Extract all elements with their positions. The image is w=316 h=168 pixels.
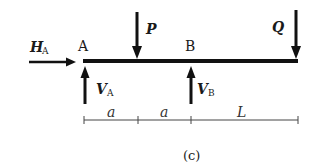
- label-VB-subscript: B: [208, 88, 215, 98]
- vertical-reaction-VB: V B: [187, 66, 216, 104]
- point-label-A: A: [77, 38, 89, 54]
- horizontal-reaction-HA: H A: [29, 39, 76, 67]
- point-label-B: B: [185, 38, 195, 54]
- dimension-label-a1: a: [107, 104, 115, 120]
- dimension-line: a a L: [84, 104, 298, 124]
- beam-diagram: H A A P B Q V A V B a a L: [0, 0, 316, 168]
- vertical-reaction-VA: V A: [81, 66, 115, 104]
- label-HA-subscript: A: [41, 46, 49, 56]
- label-P: P: [145, 21, 157, 37]
- label-VA-subscript: A: [106, 88, 114, 98]
- figure-caption: (c): [183, 148, 200, 163]
- load-Q: Q: [272, 10, 301, 59]
- dimension-label-L: L: [236, 104, 246, 120]
- dimension-label-a2: a: [160, 104, 168, 120]
- load-P: P: [132, 12, 157, 59]
- label-Q: Q: [272, 19, 284, 35]
